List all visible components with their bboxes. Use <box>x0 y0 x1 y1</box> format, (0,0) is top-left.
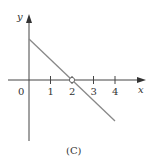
open-point-marker <box>69 77 74 82</box>
figure-caption: (C) <box>66 145 82 156</box>
x-axis-arrow-icon <box>137 77 146 83</box>
origin-label: 0 <box>18 86 24 97</box>
x-axis-label: x <box>138 84 144 95</box>
tick-label-1: 1 <box>48 86 54 97</box>
tick-label-4: 4 <box>112 86 118 97</box>
y-axis-label: y <box>16 11 23 22</box>
graph-canvas: y x 0 1 2 3 4 (C) <box>0 0 153 156</box>
y-axis-arrow-icon <box>26 14 32 23</box>
tick-label-2: 2 <box>69 86 75 97</box>
tick-label-3: 3 <box>91 86 97 97</box>
